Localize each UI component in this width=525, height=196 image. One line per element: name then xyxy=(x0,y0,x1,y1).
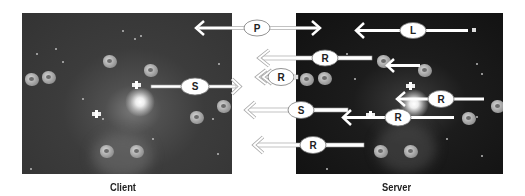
message-s1-label: S xyxy=(192,81,199,92)
message-r1-label: R xyxy=(321,53,329,64)
message-r3-arrow: R xyxy=(397,91,484,108)
message-s2-label: S xyxy=(298,105,305,116)
asteroid-move-arrow xyxy=(387,59,420,72)
message-r5-label: R xyxy=(309,140,317,151)
message-s2-arrow: S xyxy=(246,102,348,119)
message-r4-label: R xyxy=(394,112,402,123)
message-r2-label: R xyxy=(277,72,285,83)
message-r4-arrow: R xyxy=(343,109,454,126)
message-l-label: L xyxy=(410,25,416,36)
message-p-label: P xyxy=(254,23,261,34)
message-p-arrow: P xyxy=(196,20,320,36)
message-r5-arrow: R xyxy=(254,137,364,154)
message-s1-arrow: S xyxy=(151,78,240,95)
message-l-arrow: L xyxy=(356,23,476,39)
message-arrows: P L R R S xyxy=(0,0,525,196)
message-r1-arrow: R xyxy=(259,50,372,66)
message-r3-label: R xyxy=(437,94,445,105)
server-caption: Server xyxy=(382,181,411,193)
message-r2-arrow: R xyxy=(257,69,298,86)
client-caption: Client xyxy=(110,181,136,193)
